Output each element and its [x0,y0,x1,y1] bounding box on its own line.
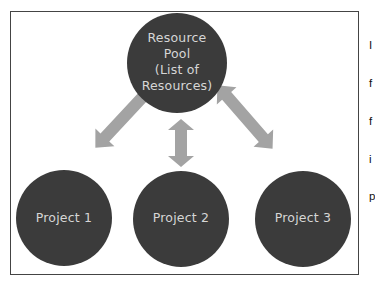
side-text-line: p [369,190,375,203]
pool-label-line: Resources) [127,78,227,94]
resource-pool-label: Resource Pool (List of Resources) [127,30,227,94]
pool-label-line: Resource [127,30,227,46]
side-text-line: f [369,115,375,128]
side-text-line: i [369,153,375,166]
pool-label-line: (List of [127,62,227,78]
pool-label-line: Pool [127,46,227,62]
side-text-line: I [369,39,375,52]
project-3-label: Project 3 [255,210,351,226]
project-2-label: Project 2 [133,210,229,226]
side-text-truncated: I f f i p [369,14,375,216]
side-text-line: f [369,77,375,90]
arrow-pool-project-2 [168,119,194,167]
project-1-label: Project 1 [16,210,112,226]
